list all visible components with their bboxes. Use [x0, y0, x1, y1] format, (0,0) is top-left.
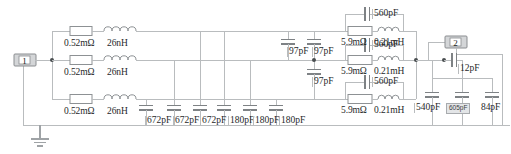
resistor-label-1: 0.52mΩ [64, 39, 94, 49]
ground-symbol [31, 125, 49, 146]
shunt-cap-label-4: 180pF [228, 116, 254, 126]
shunt-cap-label-1: 672pF [145, 116, 171, 126]
shunt-cap-label-2: 672pF [173, 116, 199, 126]
rl-cap-label-2: 560pF [372, 40, 398, 50]
shunt-cap-label-3: 672pF [200, 116, 226, 126]
rl-cap-label-3: 560pF [372, 77, 398, 87]
left-bus [35, 31, 54, 99]
port-1-label: 1 [19, 57, 30, 66]
output-cap-label-12pf: 12pF [458, 64, 480, 74]
circuit-schematic-canvas[interactable]: 1 2 0.52mΩ 26nH 0.52mΩ 26nH 0.52mΩ 26nH … [0, 0, 511, 154]
rl-resistor-label-3: 5.9mΩ [341, 106, 367, 116]
inductor-label-2: 26nH [107, 68, 128, 78]
output-cap-label-605pf-selected[interactable]: 605pF [446, 103, 470, 114]
shunt-cap-4 [217, 31, 231, 125]
series-branch-2 [52, 56, 345, 65]
rl-cap-label-1: 560pF [372, 9, 398, 19]
series-branch-3 [52, 95, 345, 104]
rl-resistor-label-1: 5.9mΩ [341, 38, 367, 48]
coupling-cap-label-2: 97pF [312, 47, 334, 57]
cap-540pf [425, 60, 439, 125]
resistor-label-2: 0.52mΩ [64, 68, 94, 78]
output-cap-label-540pf: 540pF [414, 103, 440, 113]
inductor-label-1: 26nH [107, 39, 128, 49]
output-cap-label-84pf: 84pF [481, 103, 500, 113]
cap-605pf [455, 78, 469, 125]
rl-resistor-label-2: 5.9mΩ [341, 67, 367, 77]
shunt-cap-3 [193, 31, 207, 125]
rl-inductor-label-3: 0.21mH [374, 106, 404, 116]
shunt-cap-label-6: 180pF [279, 116, 305, 126]
series-branch-1 [52, 27, 345, 36]
port-2-label: 2 [450, 39, 461, 48]
resistor-label-3: 0.52mΩ [64, 107, 94, 117]
inductor-label-3: 26nH [107, 107, 128, 117]
right-bus [414, 31, 446, 99]
coupling-cap-label-1: 97pF [287, 47, 309, 57]
shunt-cap-label-5: 180pF [253, 116, 279, 126]
coupling-cap-label-3: 97pF [312, 77, 334, 87]
